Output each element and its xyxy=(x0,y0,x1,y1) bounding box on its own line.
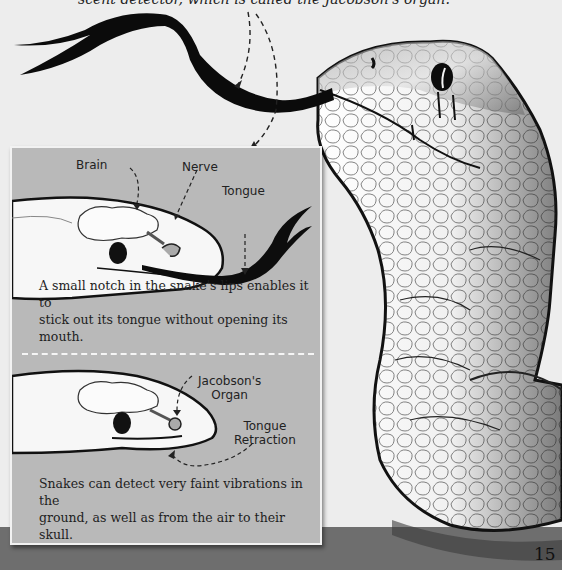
label-nerve: Nerve xyxy=(182,160,218,174)
label-tongue: Tongue xyxy=(222,184,265,198)
caption-top: A small notch in the snake's lips enable… xyxy=(39,277,320,345)
snake-tongue xyxy=(14,13,334,112)
book-page: scent detector, which is called the Jaco… xyxy=(0,0,562,570)
label-tongue-retraction: Tongue Retraction xyxy=(234,419,296,447)
label-jacobsons-organ: Jacobson's Organ xyxy=(198,374,261,402)
caption-bottom: Snakes can detect very faint vibrations … xyxy=(39,475,320,543)
label-brain: Brain xyxy=(76,158,107,172)
info-panel: Brain Nerve Tongue A small notch in the … xyxy=(10,146,322,545)
dashed-divider xyxy=(22,353,314,355)
page-number: 15 xyxy=(534,544,556,564)
